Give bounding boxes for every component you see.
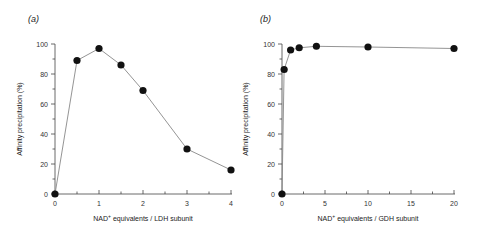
y-tick-label: 80: [267, 71, 275, 78]
data-point: [95, 45, 102, 52]
x-tick-label: 2: [141, 200, 145, 207]
data-point: [278, 190, 285, 197]
x-axis-label: NAD+ equivalents / LDH subunit: [93, 213, 192, 223]
data-point: [51, 190, 58, 197]
data-point: [450, 45, 457, 52]
data-point: [117, 61, 124, 68]
y-tick-label: 0: [44, 191, 48, 198]
x-tick-label: 4: [229, 200, 233, 207]
figure: (a)02040608010001234NAD+ equivalents / L…: [0, 0, 481, 237]
y-tick-label: 80: [40, 71, 48, 78]
x-tick-label: 0: [53, 200, 57, 207]
y-tick-label: 60: [267, 101, 275, 108]
y-axis-label: Affinity precipitation (%): [16, 82, 24, 155]
data-point: [227, 166, 234, 173]
data-point: [287, 46, 294, 53]
y-tick-label: 20: [267, 161, 275, 168]
y-tick-label: 20: [40, 161, 48, 168]
y-axis-label: Affinity precipitation (%): [242, 82, 250, 155]
data-point: [183, 145, 190, 152]
x-tick-label: 15: [407, 200, 415, 207]
data-point: [281, 66, 288, 73]
x-tick-label: 3: [185, 200, 189, 207]
series-line: [55, 49, 231, 195]
chart-panel-b: (b)02040608010005101520NAD+ equivalents …: [242, 14, 458, 223]
y-tick-label: 0: [271, 191, 275, 198]
data-point: [73, 57, 80, 64]
y-tick-label: 60: [40, 101, 48, 108]
data-point: [139, 87, 146, 94]
y-tick-label: 100: [36, 41, 48, 48]
y-tick-label: 40: [40, 131, 48, 138]
y-tick-label: 100: [263, 41, 275, 48]
chart-panel-a: (a)02040608010001234NAD+ equivalents / L…: [16, 14, 235, 223]
data-point: [296, 44, 303, 51]
x-tick-label: 10: [364, 200, 372, 207]
series-line: [282, 46, 454, 194]
panel-label: (a): [28, 14, 39, 24]
x-tick-label: 0: [280, 200, 284, 207]
x-tick-label: 20: [450, 200, 458, 207]
panel-label: (b): [260, 14, 271, 24]
x-tick-label: 1: [97, 200, 101, 207]
data-point: [313, 43, 320, 50]
x-tick-label: 5: [323, 200, 327, 207]
y-tick-label: 40: [267, 131, 275, 138]
x-axis-label: NAD+ equivalents / GDH subunit: [318, 213, 419, 223]
data-point: [364, 43, 371, 50]
